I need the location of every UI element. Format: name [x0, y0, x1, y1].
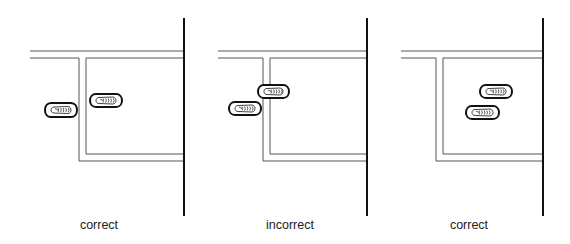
shoe-icon	[258, 85, 289, 98]
panel-3	[401, 18, 543, 216]
shoe-icon	[90, 94, 122, 107]
panel-1-caption: correct	[49, 218, 149, 232]
panel-2	[218, 18, 367, 216]
shoe-icon	[480, 85, 512, 98]
diagram-canvas	[0, 0, 570, 244]
panel-2-caption: incorrect	[240, 218, 340, 232]
shoe-icon	[466, 106, 499, 119]
panel-3-caption: correct	[419, 218, 519, 232]
shoe-icon	[229, 102, 261, 115]
shoe-icon	[45, 103, 77, 117]
room-outline	[270, 58, 367, 154]
panel-1	[30, 18, 184, 216]
